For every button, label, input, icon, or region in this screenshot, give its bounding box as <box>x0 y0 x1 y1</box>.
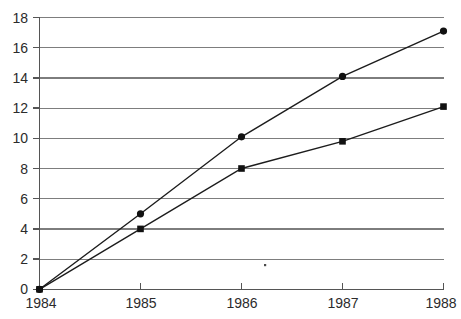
data-point <box>238 165 245 172</box>
x-tick-labels: 1984 1985 1986 1987 1988 <box>25 295 456 311</box>
y-tick-label-14: 14 <box>12 70 28 86</box>
y-tick-label-4: 4 <box>20 221 28 237</box>
data-point <box>137 210 144 217</box>
x-tick-label-1985: 1985 <box>125 295 156 311</box>
data-point <box>137 226 144 233</box>
y-tick-label-2: 2 <box>20 251 28 267</box>
data-point <box>440 27 447 34</box>
y-tick-label-8: 8 <box>20 161 28 177</box>
y-tick-label-12: 12 <box>12 100 28 116</box>
data-point <box>339 73 346 80</box>
y-tick-label-10: 10 <box>12 130 28 146</box>
series-1-line <box>40 31 444 289</box>
x-tick-label-1984: 1984 <box>25 295 56 311</box>
data-point <box>36 286 43 293</box>
data-point <box>440 103 447 110</box>
x-tickmarks <box>40 283 444 289</box>
x-tick-label-1987: 1987 <box>327 295 358 311</box>
data-point <box>339 138 346 145</box>
x-tick-label-1986: 1986 <box>226 295 257 311</box>
series-layer <box>36 27 447 292</box>
chart-canvas: 18 16 14 12 10 8 6 4 2 0 1984 1985 1986 … <box>0 0 461 319</box>
data-point <box>238 133 245 140</box>
x-tick-label-1988: 1988 <box>425 295 456 311</box>
y-tick-labels: 18 16 14 12 10 8 6 4 2 0 <box>12 10 28 298</box>
line-chart: 18 16 14 12 10 8 6 4 2 0 1984 1985 1986 … <box>0 0 461 319</box>
scan-speck <box>264 264 266 266</box>
y-tickmarks <box>33 18 39 290</box>
y-tick-label-16: 16 <box>12 40 28 56</box>
y-tick-label-18: 18 <box>12 10 28 26</box>
series-1 <box>36 27 447 292</box>
y-tick-label-6: 6 <box>20 191 28 207</box>
series-2 <box>36 103 447 292</box>
